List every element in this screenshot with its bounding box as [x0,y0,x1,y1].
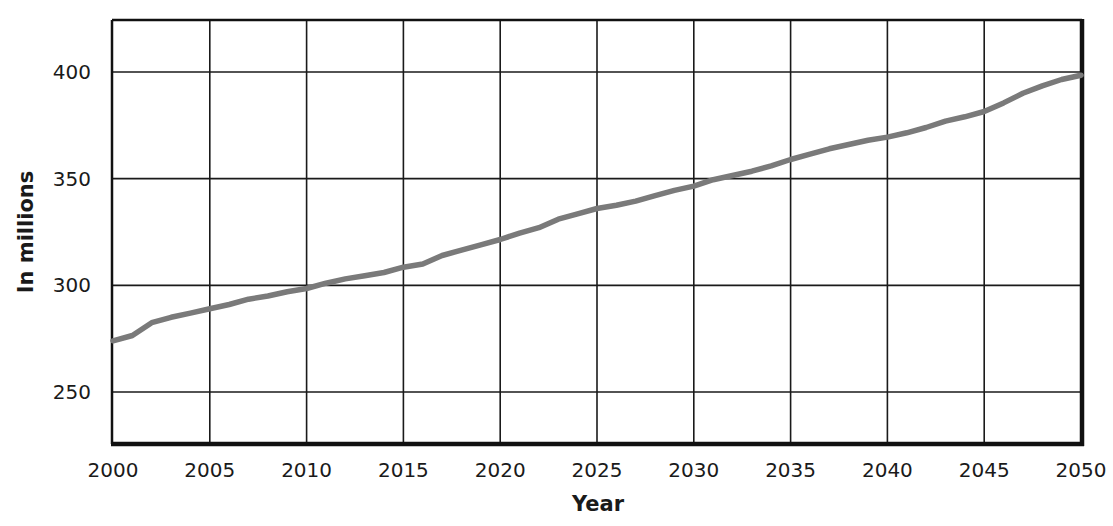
x-tick-label: 2000 [88,458,139,482]
x-tick-label: 2045 [959,458,1010,482]
y-tick-label: 250 [53,380,91,404]
y-tick-label: 350 [53,167,91,191]
x-tick-label: 2005 [184,458,235,482]
x-tick-label: 2030 [668,458,719,482]
x-tick-label: 2035 [765,458,816,482]
x-tick-label: 2010 [281,458,332,482]
x-tick-label: 2020 [475,458,526,482]
y-axis-tick-labels: 400350300250 [53,60,91,404]
grid-lines [112,20,1082,444]
line-chart: 2000200520102015202020252030203520402045… [0,0,1113,526]
x-axis-tick-labels: 2000200520102015202020252030203520402045… [88,458,1107,482]
y-tick-label: 300 [53,273,91,297]
x-tick-label: 2015 [378,458,429,482]
x-axis-title: Year [571,492,625,516]
x-tick-label: 2050 [1056,458,1107,482]
y-tick-label: 400 [53,60,91,84]
x-tick-label: 2025 [572,458,623,482]
x-tick-label: 2040 [862,458,913,482]
y-axis-title: In millions [14,171,38,294]
